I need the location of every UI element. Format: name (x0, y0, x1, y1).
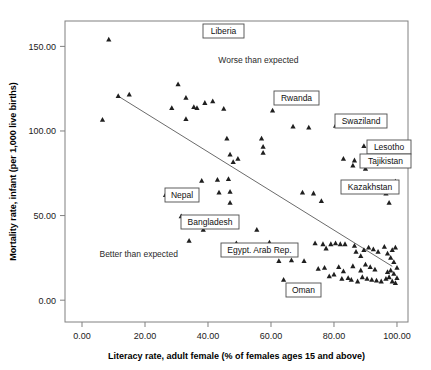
data-point (261, 150, 266, 155)
data-point (215, 177, 220, 182)
data-point (388, 268, 393, 273)
data-point (186, 238, 191, 243)
data-point (183, 116, 188, 121)
data-point (199, 178, 204, 183)
data-point (224, 136, 229, 141)
x-tick-label-0: 0.00 (73, 331, 91, 341)
data-point (216, 190, 221, 195)
point-label-text: Lesotho (374, 142, 405, 152)
data-point (369, 277, 374, 282)
data-point (175, 81, 180, 86)
y-axis-title: Mortality rate, infant (per 1,000 live b… (8, 82, 18, 261)
x-axis-title: Literacy rate, adult female (% of female… (108, 351, 365, 361)
data-point (341, 156, 346, 161)
data-point (350, 263, 355, 268)
data-point (300, 190, 305, 195)
data-point (226, 176, 231, 181)
data-point (338, 241, 343, 246)
data-point (306, 125, 311, 130)
data-point (360, 274, 365, 279)
annotation-0: Worse than expected (218, 55, 298, 65)
data-point (319, 198, 324, 203)
data-point (202, 100, 207, 105)
x-tick-label-2: 40.00 (197, 331, 220, 341)
data-point (183, 95, 188, 100)
plot-frame (65, 21, 408, 322)
data-point (254, 227, 259, 232)
data-point (289, 257, 294, 262)
data-point (100, 117, 105, 122)
point-label-text: Swaziland (342, 116, 381, 126)
annotation-1: Better than expected (99, 249, 178, 259)
data-point (368, 264, 373, 269)
point-label-text: Rwanda (281, 93, 312, 103)
data-point (227, 200, 232, 205)
data-point (116, 93, 121, 98)
data-point (312, 241, 317, 246)
point-label-text: Oman (292, 285, 315, 295)
data-point (320, 241, 325, 246)
data-point (358, 253, 363, 258)
data-point (169, 105, 174, 110)
data-point (333, 241, 338, 246)
point-label-text: Kazakhstan (348, 182, 393, 192)
data-point (221, 106, 226, 111)
data-point (235, 156, 240, 161)
data-point (331, 272, 336, 277)
data-point (322, 265, 327, 270)
data-point (327, 274, 332, 279)
y-tick-label-0: 0.00 (38, 296, 56, 306)
point-label-text: Egypt. Arab Rep. (227, 245, 291, 255)
y-tick-label-2: 100.00 (28, 126, 56, 136)
data-point (346, 275, 351, 280)
data-point (372, 267, 377, 272)
data-point (210, 98, 215, 103)
data-point (336, 264, 341, 269)
data-point (311, 191, 316, 196)
data-point (364, 276, 369, 281)
data-point (375, 249, 380, 254)
data-point (231, 159, 236, 164)
y-tick-label-1: 50.00 (33, 211, 56, 221)
data-point (106, 37, 111, 42)
chart-canvas: 0.0020.0040.0060.0080.00100.000.0050.001… (0, 0, 431, 370)
point-label-text: Nepal (171, 190, 193, 200)
data-point (127, 92, 132, 97)
data-point (276, 258, 281, 263)
data-point (355, 279, 360, 284)
data-point (324, 246, 329, 251)
x-tick-label-4: 80.00 (323, 331, 346, 341)
data-point (353, 249, 358, 254)
data-point (391, 259, 396, 264)
y-tick-label-3: 150.00 (28, 42, 56, 52)
data-point (390, 279, 395, 284)
data-point (394, 275, 399, 280)
data-point (361, 143, 366, 148)
data-point (290, 124, 295, 129)
data-point (341, 268, 346, 273)
point-label-text: Bangladesh (188, 217, 233, 227)
data-point (259, 136, 264, 141)
data-point (227, 152, 232, 157)
scatter-chart: 0.0020.0040.0060.0080.00100.000.0050.001… (0, 0, 431, 370)
data-point (379, 279, 384, 284)
data-point (316, 266, 321, 271)
data-point (350, 163, 355, 168)
data-point (394, 265, 399, 270)
point-label-text: Tajikistan (368, 156, 403, 166)
data-point (387, 274, 392, 279)
x-tick-label-5: 100.00 (383, 331, 411, 341)
data-point (385, 251, 390, 256)
data-point (363, 262, 368, 267)
data-point (382, 244, 387, 249)
data-point (261, 144, 266, 149)
x-tick-label-1: 20.00 (134, 331, 157, 341)
data-point (371, 246, 376, 251)
data-point (366, 245, 371, 250)
data-point (301, 258, 306, 263)
x-tick-label-3: 60.00 (260, 331, 283, 341)
data-point (342, 241, 347, 246)
data-point (328, 241, 333, 246)
data-point (358, 268, 363, 273)
data-point (388, 255, 393, 260)
